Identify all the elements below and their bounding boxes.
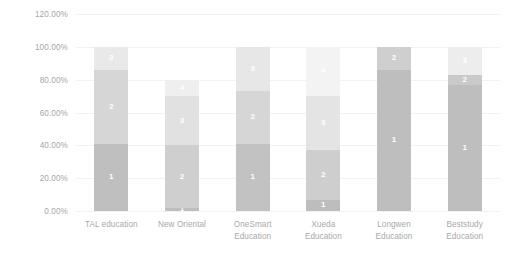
x-axis-category-label-line: Education (430, 231, 500, 243)
bar-segment-label: 1 (250, 173, 254, 181)
bar-segment-label: 2 (462, 76, 466, 84)
bar-segment-label: 3 (250, 65, 254, 73)
bar-segment-label: 2 (321, 171, 325, 179)
bar-group[interactable]: 12 (362, 47, 426, 211)
x-axis-labels: TAL educationNew OrientalOneSmartEducati… (76, 215, 500, 261)
bar-segment[interactable]: 3 (236, 47, 270, 91)
bar-group[interactable]: 123 (79, 47, 143, 211)
x-axis-category-label-line: Longwen (359, 219, 429, 231)
y-axis-tick-label: 80.00% (40, 75, 68, 84)
bar-segment-label: 3 (462, 57, 466, 65)
bar-group[interactable]: 123 (221, 47, 285, 211)
x-axis-category-label-line: TAL education (76, 219, 146, 231)
x-axis-category-label: LongwenEducation (359, 219, 429, 242)
bar-stack[interactable]: 123 (94, 47, 128, 211)
y-axis-tick-label: 100.00% (35, 42, 68, 51)
bar-segment-label: 1 (109, 173, 113, 181)
bar-segment-label: 2 (109, 103, 113, 111)
bar-segment-label: 2 (250, 113, 254, 121)
bar-segment-label: 4 (180, 84, 184, 92)
bar-segment[interactable]: 4 (165, 80, 199, 96)
y-axis-tick-label: 0.00% (44, 207, 68, 216)
x-axis-category-label: BeststudyEducation (430, 219, 500, 242)
bar-segment[interactable]: 1 (377, 70, 411, 211)
bar-segment[interactable]: 1 (236, 144, 270, 211)
y-axis-tick-label: 40.00% (40, 141, 68, 150)
y-axis-tick-label: 60.00% (40, 108, 68, 117)
bar-stack[interactable]: 12 (377, 47, 411, 211)
x-axis-category-label: OneSmartEducation (218, 219, 288, 242)
bar-segment-label: 4 (321, 67, 325, 75)
x-axis-category-label-line: Beststudy (430, 219, 500, 231)
x-axis-category-label-line: OneSmart (218, 219, 288, 231)
bar-segment-label: 2 (392, 54, 396, 62)
bar-stack[interactable]: 1234 (165, 80, 199, 211)
stacked-bar-chart: 120.00%100.00%80.00%60.00%40.00%20.00%0.… (0, 0, 508, 261)
bar-segment-label: 1 (462, 144, 466, 152)
bar-stack[interactable]: 1234 (306, 47, 340, 211)
bar-segment[interactable]: 1 (306, 200, 340, 211)
bar-segment[interactable]: 3 (165, 96, 199, 145)
bar-segment[interactable]: 2 (306, 150, 340, 199)
bar-segment-label: 3 (321, 119, 325, 127)
bar-group[interactable]: 1234 (291, 47, 355, 211)
x-axis-category-label-line: Xueda (288, 219, 358, 231)
bar-segment-label: 2 (180, 173, 184, 181)
bar-segment[interactable]: 1 (165, 208, 199, 211)
bar-segment[interactable]: 3 (94, 47, 128, 70)
bar-group[interactable]: 123 (433, 47, 497, 211)
bar-stack[interactable]: 123 (236, 47, 270, 211)
bar-segment[interactable]: 2 (377, 47, 411, 70)
bar-segment[interactable]: 2 (236, 91, 270, 144)
bar-segment[interactable]: 2 (94, 70, 128, 144)
bar-group[interactable]: 1234 (150, 80, 214, 211)
x-axis-category-label: XuedaEducation (288, 219, 358, 242)
x-axis-category-label-line: New Oriental (147, 219, 217, 231)
x-axis-category-label: TAL education (76, 219, 146, 231)
bar-segment-label: 1 (392, 136, 396, 144)
y-axis-tick-label: 120.00% (35, 10, 68, 19)
x-axis-category-label-line: Education (218, 231, 288, 243)
bar-segment-label: 1 (321, 201, 325, 209)
bar-stack[interactable]: 123 (448, 47, 482, 211)
bar-segment[interactable]: 4 (306, 47, 340, 96)
bar-segment[interactable]: 1 (94, 144, 128, 211)
x-axis-category-label: New Oriental (147, 219, 217, 231)
y-axis-tick-label: 20.00% (40, 174, 68, 183)
bar-segment[interactable]: 3 (306, 96, 340, 150)
bar-segment[interactable]: 2 (448, 75, 482, 85)
bar-segment-label: 3 (180, 117, 184, 125)
bar-segment[interactable]: 1 (448, 85, 482, 211)
x-axis-category-label-line: Education (359, 231, 429, 243)
bar-segment[interactable]: 2 (165, 145, 199, 207)
bar-segment[interactable]: 3 (448, 47, 482, 75)
x-axis-category-label-line: Education (288, 231, 358, 243)
bar-segment-label: 3 (109, 54, 113, 62)
y-axis: 120.00%100.00%80.00%60.00%40.00%20.00%0.… (0, 0, 74, 261)
